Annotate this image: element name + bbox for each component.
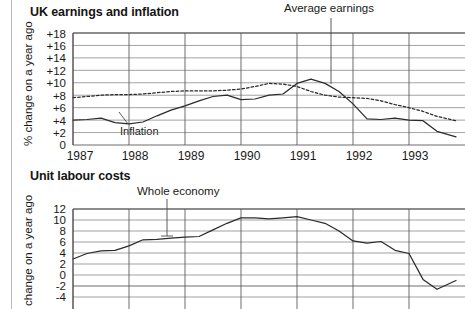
- figure-page: UK earnings and inflation % change on a …: [0, 0, 465, 309]
- chart-panel-unit-labour-costs: Unit labour costs change on a year ago 1…: [0, 165, 465, 309]
- plot-area-unit-labour-costs: [0, 165, 465, 309]
- series-average-earnings: [73, 83, 456, 120]
- chart-panel-earnings: UK earnings and inflation % change on a …: [0, 0, 465, 165]
- plot-area-earnings: [0, 0, 465, 165]
